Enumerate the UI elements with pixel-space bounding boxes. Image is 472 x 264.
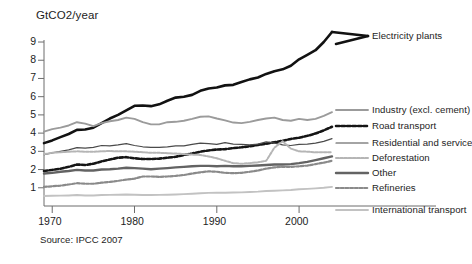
x-axis-ticks [52,206,299,213]
y-axis-ticks [38,42,44,188]
y-tick-label: 9 [16,35,36,47]
x-tick-label: 1980 [121,215,144,227]
series-line-international-transport [44,187,332,196]
legend-leader-electricity-plants [332,32,368,36]
legend-label-international-transport: International transport [372,204,466,215]
legend-label-refineries: Refineries [372,182,416,193]
y-tick-label: 2 [16,163,36,175]
legend-label-road-transport: Road transport [372,120,436,131]
legend-label-electricity-plants: Electricity plants [372,30,442,41]
x-tick-label: 1990 [203,215,226,227]
legend-label-residential-and-service: Residential and service [372,137,472,148]
y-tick-label: 8 [16,53,36,65]
data-series-group [44,32,332,196]
y-tick-label: 1 [16,181,36,193]
legend-label-industry-excl-cement: Industry (excl. cement) [372,104,470,115]
y-tick-label: 7 [16,71,36,83]
y-tick-label: 5 [16,108,36,120]
legend-swatch [336,36,368,44]
x-tick-label: 2000 [285,215,308,227]
source-note: Source: IPCC 2007 [40,234,123,245]
y-tick-label: 3 [16,144,36,156]
x-tick-label: 1970 [38,215,61,227]
series-line-electricity-plants [44,32,332,143]
y-tick-label: 4 [16,126,36,138]
y-tick-label: 6 [16,90,36,102]
legend-label-other: Other [372,167,396,178]
legend-label-deforestation: Deforestation [372,152,430,163]
legend-swatches [332,32,368,210]
